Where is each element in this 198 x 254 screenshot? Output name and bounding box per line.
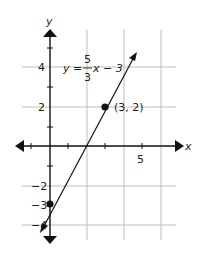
x-axis-right-arrow-icon [175, 140, 184, 152]
line-arrow-top-icon [129, 52, 137, 61]
x-axis [15, 140, 184, 152]
equation-label: y = 5 3 x − 3 [62, 53, 123, 84]
equation-lhs: y = [62, 62, 82, 75]
y-axis-label: y [45, 15, 53, 28]
coordinate-plane: y x 5 4 2 −2 −3 −4 (3, 2) y = 5 3 x − 3 [0, 0, 198, 254]
x-axis-left-arrow-icon [15, 140, 24, 152]
y-axis-up-arrow-icon [43, 29, 57, 37]
point-0-neg3 [46, 200, 53, 207]
y-axis-down-arrow-icon [43, 236, 57, 244]
tick-label-y-4: 4 [38, 61, 45, 74]
tick-label-y-neg2: −2 [31, 180, 47, 193]
tick-label-y-neg3: −3 [31, 199, 47, 212]
tick-label-y-2: 2 [38, 101, 45, 114]
x-axis-label: x [184, 140, 192, 153]
point-3-2 [101, 103, 108, 110]
tick-label-x-5: 5 [137, 153, 144, 166]
equation-numerator: 5 [84, 53, 91, 66]
equation-rhs: x − 3 [92, 62, 123, 75]
equation-denominator: 3 [84, 71, 91, 84]
point-label-3-2: (3, 2) [114, 101, 144, 114]
